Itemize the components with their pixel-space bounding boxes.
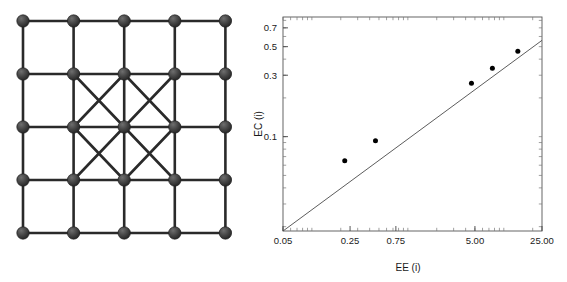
lattice-node [17,15,29,27]
lattice-node [169,227,181,239]
lattice-node [118,68,130,80]
axis-major-ticks [283,28,542,231]
lattice-panel [0,0,250,282]
scatter-plot: 0.050.250.755.0025.00 0.10.30.50.7 EE (i… [250,0,567,282]
lattice-node [67,121,79,133]
lattice-graph [0,0,250,282]
fit-line [283,40,542,231]
data-point [469,81,474,86]
lattice-node [219,121,231,133]
lattice-node [169,174,181,186]
data-point [515,49,520,54]
lattice-node [118,15,130,27]
scatter-plot-panel: 0.050.250.755.0025.00 0.10.30.50.7 EE (i… [250,0,567,282]
lattice-node [219,227,231,239]
lattice-node [67,68,79,80]
lattice-node [118,121,130,133]
figure-container: 0.050.250.755.0025.00 0.10.30.50.7 EE (i… [0,0,567,282]
lattice-node [67,15,79,27]
y-tick-label: 0.5 [264,41,277,52]
lattice-node [118,227,130,239]
lattice-node [169,68,181,80]
y-axis-title: EC (i) [253,111,264,137]
lattice-node [17,68,29,80]
lattice-node [67,227,79,239]
lattice-node [17,227,29,239]
data-point [490,66,495,71]
lattice-node [219,15,231,27]
x-tick-label: 5.00 [466,235,485,246]
axis-minor-ticks [283,17,542,231]
data-point [373,138,378,143]
fit-line-segment [283,40,542,231]
data-point [342,158,347,163]
x-tick-label: 0.25 [341,235,360,246]
x-tick-label: 25.00 [530,235,554,246]
x-tick-label: 0.05 [274,235,293,246]
lattice-node [169,15,181,27]
plot-frame [283,17,542,231]
lattice-node [118,174,130,186]
lattice-node [169,121,181,133]
y-tick-labels: 0.10.30.50.7 [264,22,277,142]
lattice-node [17,121,29,133]
y-tick-label: 0.7 [264,22,277,33]
lattice-node [17,174,29,186]
plot-frame-box [283,17,542,231]
lattice-node [219,68,231,80]
data-points [342,49,520,163]
y-tick-label: 0.1 [264,131,277,142]
lattice-node [67,174,79,186]
x-tick-label: 0.75 [387,235,406,246]
y-tick-label: 0.3 [264,70,277,81]
x-axis-title: EE (i) [396,262,421,273]
x-tick-labels: 0.050.250.755.0025.00 [274,235,554,246]
lattice-node [219,174,231,186]
